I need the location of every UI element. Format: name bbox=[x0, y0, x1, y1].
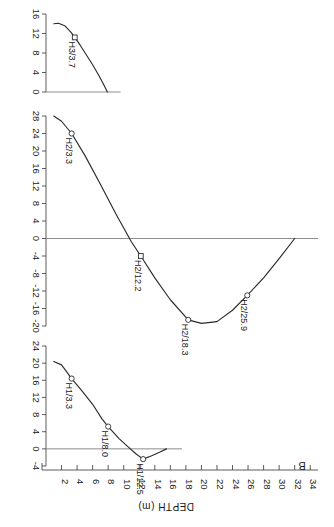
data-point-marker bbox=[106, 424, 111, 429]
figure-container: 0481216H3/3.7-20-16-12-8-40481216202428H… bbox=[0, 0, 334, 527]
x-tick-label: 18 bbox=[184, 479, 195, 490]
y-tick-label-H1: 8 bbox=[31, 412, 42, 417]
y-tick-label-H1: 0 bbox=[31, 446, 42, 451]
multi-panel-depth-chart: 0481216H3/3.7-20-16-12-8-40481216202428H… bbox=[0, 0, 334, 527]
y-tick-label-H2: 20 bbox=[31, 146, 42, 157]
data-point-marker bbox=[245, 293, 250, 298]
x-tick-label: 34 bbox=[308, 479, 319, 490]
data-point-label: H1/8.0 bbox=[100, 431, 110, 458]
y-tick-label-H3: 8 bbox=[31, 50, 42, 55]
x-tick-label: 10 bbox=[122, 479, 133, 490]
y-tick-label-H2: -16 bbox=[31, 302, 42, 316]
x-tick-label: 8 bbox=[106, 479, 117, 484]
x-tick-label: 14 bbox=[153, 479, 164, 490]
y-tick-label-H2: 0 bbox=[31, 236, 42, 241]
data-point-label: H2/25.9 bbox=[239, 299, 249, 331]
data-point-label: H2/18.3 bbox=[180, 324, 190, 356]
curve-H2 bbox=[54, 116, 295, 323]
panel-H2: -20-16-12-8-40481216202428H2/3.3H2/12.2H… bbox=[31, 111, 318, 356]
y-tick-label-H2: -8 bbox=[31, 269, 42, 277]
data-point-marker bbox=[138, 254, 143, 259]
y-tick-label-H3: 16 bbox=[31, 9, 42, 20]
y-tick-label-H2: 24 bbox=[31, 128, 42, 139]
y-tick-label-H3: 12 bbox=[31, 28, 42, 39]
y-tick-label-H2: 16 bbox=[31, 163, 42, 174]
data-point-marker bbox=[141, 457, 146, 462]
y-tick-label-H2: -12 bbox=[31, 284, 42, 298]
panel-H1: -404812162024H1/3.3H1/8.0H1/12.5 bbox=[31, 341, 182, 495]
x-tick-label: 2 bbox=[60, 479, 71, 484]
data-point-marker bbox=[72, 35, 77, 40]
data-point-label: H2/12.2 bbox=[133, 260, 143, 292]
y-tick-label-H3: 0 bbox=[31, 89, 42, 94]
y-tick-label-H1: 20 bbox=[31, 358, 42, 369]
y-tick-label-H2: -4 bbox=[31, 252, 42, 260]
y-tick-label-H1: 4 bbox=[31, 429, 42, 434]
x-axis: 246810121416182022242628303234 bbox=[42, 463, 319, 490]
data-point-marker bbox=[69, 376, 74, 381]
y-tick-label-H2: 12 bbox=[31, 181, 42, 192]
x-tick-label: 6 bbox=[91, 479, 102, 484]
x-tick-label: 26 bbox=[246, 479, 257, 490]
x-tick-label: 4 bbox=[75, 479, 86, 484]
y-tick-label-H1: -4 bbox=[31, 462, 42, 470]
panel-letter-label: B bbox=[298, 460, 305, 472]
y-tick-label-H3: 4 bbox=[31, 70, 42, 75]
panel-H3: 0481216H3/3.7 bbox=[31, 9, 121, 95]
x-tick-label: 28 bbox=[262, 479, 273, 490]
y-tick-label-H1: 16 bbox=[31, 375, 42, 386]
y-tick-label-H2: 4 bbox=[31, 218, 42, 223]
y-tick-label-H1: 24 bbox=[31, 341, 42, 352]
x-tick-label: 12 bbox=[137, 479, 148, 490]
x-tick-label: 24 bbox=[231, 479, 242, 490]
data-point-label: H2/3.3 bbox=[64, 138, 74, 165]
data-point-marker bbox=[69, 131, 74, 136]
x-tick-label: 20 bbox=[199, 479, 210, 490]
y-tick-label-H2: -20 bbox=[31, 319, 42, 333]
curve-H3 bbox=[54, 23, 108, 92]
data-point-label: H3/3.7 bbox=[67, 41, 77, 68]
data-point-marker bbox=[186, 317, 191, 322]
data-point-label: H1/3.3 bbox=[64, 383, 74, 410]
y-tick-label-H2: 8 bbox=[31, 201, 42, 206]
x-tick-label: 32 bbox=[293, 479, 304, 490]
y-tick-label-H1: 12 bbox=[31, 392, 42, 403]
x-tick-label: 30 bbox=[277, 479, 288, 490]
y-tick-label-H2: 28 bbox=[31, 111, 42, 122]
x-axis-title: DEPTH (m) bbox=[138, 501, 194, 512]
x-tick-label: 22 bbox=[215, 479, 226, 490]
x-tick-label: 16 bbox=[168, 479, 179, 490]
